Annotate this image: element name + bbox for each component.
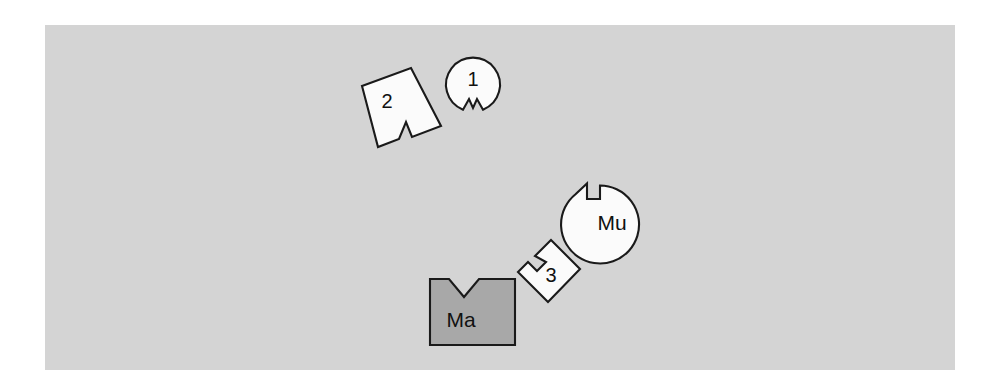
shape-2-label: 2 — [381, 90, 392, 112]
shape-1-group[interactable]: 1 — [446, 58, 500, 110]
shape-mu-group[interactable]: Mu — [561, 184, 639, 264]
shape-3-label: 3 — [545, 264, 556, 286]
diagram-canvas: 2 1 Mu 3 Ma — [0, 0, 998, 389]
shape-1-label: 1 — [467, 68, 478, 90]
shape-ma-label: Ma — [446, 308, 475, 331]
notched-shapes-diagram: 2 1 Mu 3 Ma — [0, 0, 998, 389]
shape-mu-label: Mu — [597, 211, 626, 234]
shape-ma-group[interactable]: Ma — [430, 279, 515, 345]
